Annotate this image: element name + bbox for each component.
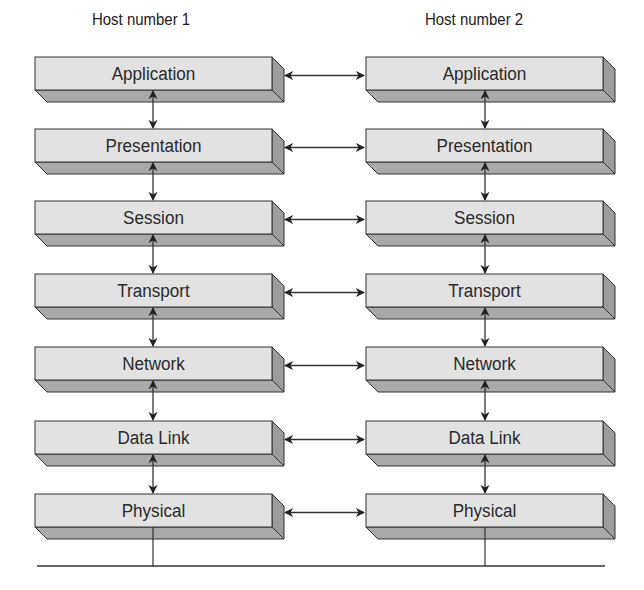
layer-label: Presentation [437,136,533,157]
layer-box-host1-presentation: Presentation [35,129,284,174]
layer-label: Session [454,208,515,229]
layer-label: Network [122,354,186,375]
layer-box-host2-data-link: Data Link [366,421,615,466]
layer-box-host1-session: Session [35,201,284,246]
layer-label: Transport [448,281,520,302]
layer-label: Session [123,208,184,229]
layer-box-host1-data-link: Data Link [35,421,284,466]
layer-box-host1-physical: Physical [35,494,284,539]
layer-box-host2-physical: Physical [366,494,615,539]
layer-box-host1-network: Network [35,347,284,392]
layer-label: Transport [117,281,189,302]
layer-label: Physical [453,501,517,522]
osi-diagram: ApplicationApplicationPresentationPresen… [0,0,644,590]
layer-label: Data Link [117,428,190,449]
layer-label: Application [443,64,527,85]
layer-label: Data Link [448,428,521,449]
layer-box-host2-application: Application [366,57,615,102]
layer-label: Application [112,64,196,85]
layer-box-host1-transport: Transport [35,274,284,319]
layer-label: Physical [122,501,186,522]
layer-label: Presentation [106,136,202,157]
layer-box-host2-network: Network [366,347,615,392]
layer-box-host2-transport: Transport [366,274,615,319]
layer-box-host2-session: Session [366,201,615,246]
layer-box-host2-presentation: Presentation [366,129,615,174]
layer-box-host1-application: Application [35,57,284,102]
layer-label: Network [453,354,517,375]
